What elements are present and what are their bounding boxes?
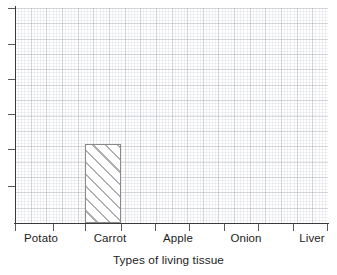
x-tick-label-apple: Apple <box>163 232 193 244</box>
x-tick-label-potato: Potato <box>24 232 58 244</box>
x-tick-label-carrot: Carrot <box>94 232 127 244</box>
x-axis-tick <box>258 224 259 231</box>
x-tick-label-onion: Onion <box>230 232 261 244</box>
x-axis-tick <box>327 224 328 231</box>
bar-chart: Potato Carrot Apple Onion Liver Types of… <box>0 0 337 275</box>
y-axis-tick <box>8 44 15 45</box>
y-axis-line <box>15 6 16 225</box>
y-axis-tick <box>8 114 15 115</box>
x-axis-tick <box>121 224 122 231</box>
x-axis-tick <box>224 224 225 231</box>
x-axis-tick <box>53 224 54 231</box>
y-axis-tick <box>8 186 15 187</box>
y-axis-tick <box>8 149 15 150</box>
x-axis-line <box>14 223 329 224</box>
y-axis-tick <box>8 8 15 9</box>
x-axis-tick <box>189 224 190 231</box>
bar-carrot <box>85 144 121 223</box>
plot-area <box>15 8 328 223</box>
y-axis-tick <box>8 79 15 80</box>
x-axis-tick <box>293 224 294 231</box>
x-axis-tick <box>15 224 16 231</box>
x-tick-label-liver: Liver <box>299 232 324 244</box>
x-axis-tick <box>85 224 86 231</box>
x-axis-title: Types of living tissue <box>0 253 337 267</box>
x-axis-tick <box>155 224 156 231</box>
